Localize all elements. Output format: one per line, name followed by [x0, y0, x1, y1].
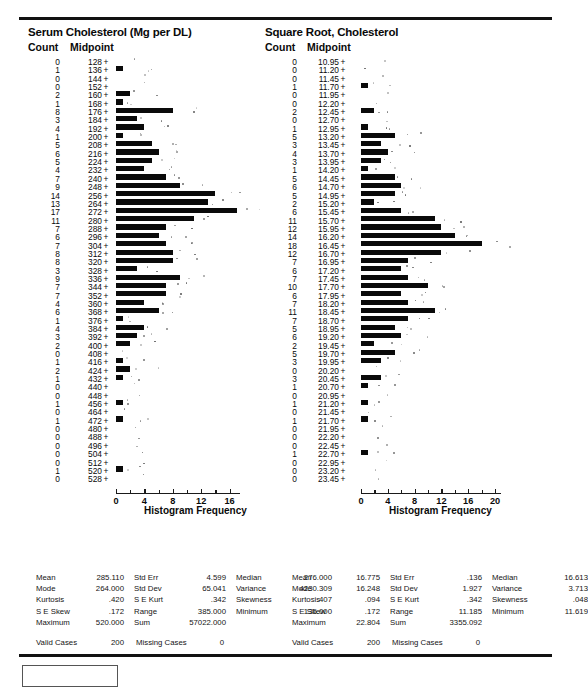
axis-tick-minor [159, 490, 160, 493]
scan-speckle [196, 107, 198, 109]
axis-tick-minor [374, 490, 375, 493]
scan-speckle [430, 262, 432, 264]
histogram-bar [361, 383, 368, 388]
histogram-row: 219.45+ [265, 340, 525, 348]
histogram-bar [361, 83, 368, 88]
histogram-row: 6296+ [28, 231, 278, 239]
histogram-row: 120.70+ [265, 381, 525, 389]
histogram-bar [361, 333, 401, 338]
stat-value: 11.619 [540, 606, 588, 617]
histogram-bar [361, 283, 428, 288]
histogram-row: 111.70+ [265, 81, 525, 89]
scan-speckle [222, 199, 224, 201]
scan-speckle [139, 395, 141, 397]
stat-label: Std Err [380, 572, 432, 583]
scan-speckle [124, 408, 126, 410]
histogram-row: 1520+ [28, 465, 278, 473]
histogram-row: 7344+ [28, 281, 278, 289]
axis-tick [388, 489, 389, 494]
histogram-bar [116, 191, 215, 196]
histogram-row: 0152+ [28, 81, 278, 89]
stat-value: 385.000 [176, 606, 226, 617]
histogram-bar [116, 466, 123, 471]
missing-cases-value: 0 [466, 637, 480, 648]
scan-speckle [377, 437, 379, 439]
histogram-row: 7304+ [28, 240, 278, 248]
histogram-row: 012.70+ [265, 114, 525, 122]
scan-speckle [375, 168, 377, 170]
scan-speckle [425, 292, 427, 294]
scan-speckle [393, 201, 395, 203]
histogram-bar [116, 358, 123, 363]
histogram-row: 0448+ [28, 390, 278, 398]
scan-speckle [139, 466, 141, 468]
histogram-row: 022.20+ [265, 431, 525, 439]
histogram-bar [361, 291, 401, 296]
axis-tick-label: 20 [490, 496, 500, 506]
histogram-bar [116, 174, 166, 179]
stat-value: 16.613 [540, 572, 588, 583]
histogram-row: 17272+ [28, 206, 278, 214]
stat-label: Skewness [482, 594, 540, 605]
histogram-row: 0504+ [28, 448, 278, 456]
histogram-row: 020.20+ [265, 365, 525, 373]
histogram-row: 617.95+ [265, 290, 525, 298]
scan-speckle [127, 102, 129, 104]
histogram-row: 617.20+ [265, 265, 525, 273]
stat-label: Mode [36, 583, 80, 594]
histogram-bar [361, 133, 395, 138]
histogram-bar [116, 208, 237, 213]
scan-speckle [378, 478, 380, 480]
stat-value: 16.248 [336, 583, 380, 594]
count-header-right: Count [265, 41, 307, 53]
scan-speckle [185, 236, 187, 238]
statistic-row: Mode16.248Std Dev1.927Variance3.713 [292, 583, 542, 594]
axis-line-right [361, 493, 501, 494]
scan-speckle [443, 286, 445, 288]
histogram-bar [361, 191, 395, 196]
axis-tick [116, 489, 117, 494]
scan-speckle [401, 344, 403, 346]
scan-speckle [203, 218, 205, 220]
histogram-row: 121.70+ [265, 415, 525, 423]
scan-speckle [202, 184, 204, 186]
histogram-row: 9336+ [28, 273, 278, 281]
stat-label: Kurtosis [292, 594, 336, 605]
histogram-rows-left: 0128+1136+0144+0152+2160+1168+8176+3184+… [28, 56, 278, 482]
histogram-bar [116, 291, 166, 296]
histogram-row: 9248+ [28, 181, 278, 189]
histogram-bar [116, 99, 123, 104]
scan-speckle [376, 103, 378, 105]
statistic-row: Kurtosis.420S E Kurt.342Skewness.407 [36, 594, 266, 605]
scan-speckle [188, 278, 190, 280]
histogram-row: 1416.20+ [265, 231, 525, 239]
histogram-bar [116, 166, 144, 171]
scan-speckle [409, 145, 411, 147]
histogram-row: 513.20+ [265, 131, 525, 139]
axis-title-right: Histogram Frequency [389, 505, 492, 516]
scan-speckle [378, 112, 380, 114]
valid-cases-row: Valid Cases200Missing Cases0 [36, 637, 266, 648]
stat-value: 57022.000 [176, 617, 226, 628]
row-count: 0 [28, 475, 60, 483]
histogram-row: 716.95+ [265, 256, 525, 264]
histogram-row: 6216+ [28, 148, 278, 156]
histogram-row: 122.70+ [265, 448, 525, 456]
axis-tick [230, 489, 231, 494]
scan-speckle [391, 151, 393, 153]
scan-speckle [193, 111, 195, 113]
stat-label: Range [124, 606, 176, 617]
stat-value: .094 [336, 594, 380, 605]
axis-tick-label: 0 [113, 496, 118, 506]
statistic-row: S E Skew.172Range385.000Minimum135.000 [36, 606, 266, 617]
axis-tick-label: 4 [385, 496, 390, 506]
stat-value: 285.110 [80, 572, 124, 583]
histogram-bar [361, 233, 455, 238]
histogram-row: 614.70+ [265, 181, 525, 189]
histogram-bar [361, 250, 441, 255]
scan-speckle [384, 159, 386, 161]
axis-tick-minor [130, 490, 131, 493]
histogram-bar [116, 366, 130, 371]
histogram-row: 519.70+ [265, 348, 525, 356]
scan-speckle [142, 452, 144, 454]
